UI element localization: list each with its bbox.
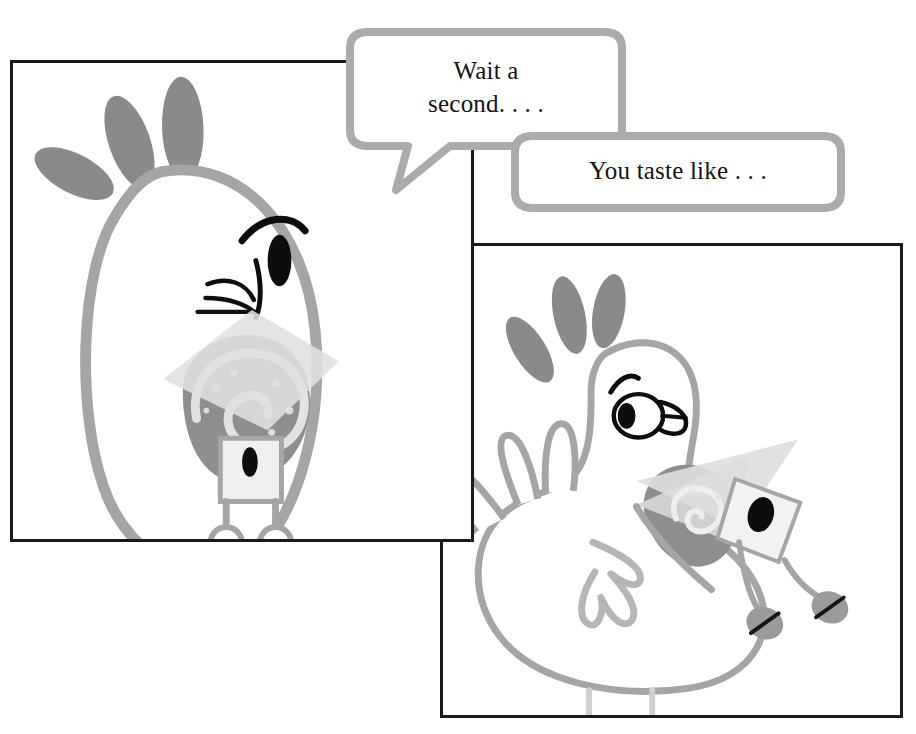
eye-pupil-right bbox=[618, 403, 636, 429]
comic-panel-right bbox=[440, 243, 903, 718]
comic-page: Wait a second. . . . You taste like . . … bbox=[0, 0, 916, 734]
eye-pupil-left bbox=[268, 235, 292, 286]
eye-crease-right bbox=[662, 416, 686, 418]
speech-bubble-2-shape bbox=[507, 130, 849, 216]
snail-eyestalk-right-2 bbox=[785, 560, 821, 598]
snail-mouth-left bbox=[242, 447, 258, 477]
panel-right-artwork bbox=[443, 246, 900, 715]
speech-bubble-2: You taste like . . . bbox=[507, 130, 849, 216]
